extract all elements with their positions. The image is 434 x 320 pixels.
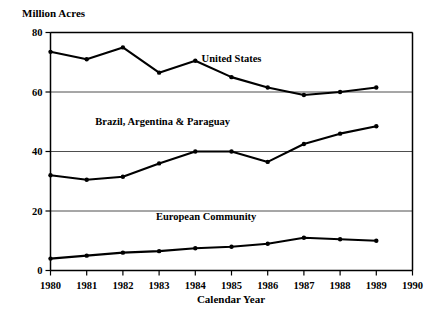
data-point-united-states-1988 xyxy=(338,90,342,94)
data-series-group xyxy=(48,45,378,261)
data-point-european-community-1984 xyxy=(193,246,197,250)
data-point-brazil-argentina-paraguay-1989 xyxy=(374,124,378,128)
data-point-european-community-1983 xyxy=(157,249,161,253)
data-point-united-states-1985 xyxy=(229,75,233,79)
data-point-brazil-argentina-paraguay-1986 xyxy=(266,160,270,164)
data-point-european-community-1980 xyxy=(48,256,52,260)
data-point-european-community-1982 xyxy=(121,250,125,254)
data-point-united-states-1986 xyxy=(266,85,270,89)
data-point-brazil-argentina-paraguay-1983 xyxy=(157,161,161,165)
data-point-united-states-1980 xyxy=(48,50,52,54)
x-tick-label-1985: 1985 xyxy=(221,280,242,291)
data-point-european-community-1981 xyxy=(85,253,89,257)
x-tick-label-1984: 1984 xyxy=(185,280,207,291)
chart-container: 020406080 198019811982198319841985198619… xyxy=(0,0,434,320)
series-line-brazil-argentina-paraguay xyxy=(51,126,377,180)
data-point-european-community-1987 xyxy=(302,236,306,240)
data-point-brazil-argentina-paraguay-1980 xyxy=(48,173,52,177)
y-tick-label-80: 80 xyxy=(32,27,43,38)
x-tick-label-1986: 1986 xyxy=(257,280,278,291)
data-point-european-community-1985 xyxy=(229,245,233,249)
data-point-united-states-1989 xyxy=(374,85,378,89)
x-tick-label-1983: 1983 xyxy=(149,280,170,291)
data-point-brazil-argentina-paraguay-1987 xyxy=(302,142,306,146)
data-point-united-states-1983 xyxy=(157,70,161,74)
data-point-brazil-argentina-paraguay-1988 xyxy=(338,131,342,135)
x-axis-ticks-group: 1980198119821983198419851986198719881989… xyxy=(40,271,423,291)
data-point-united-states-1984 xyxy=(193,59,197,63)
data-point-brazil-argentina-paraguay-1984 xyxy=(193,149,197,153)
data-point-european-community-1986 xyxy=(266,242,270,246)
x-tick-label-1980: 1980 xyxy=(40,280,61,291)
x-tick-label-1989: 1989 xyxy=(366,280,387,291)
data-point-united-states-1982 xyxy=(121,45,125,49)
series-label-united-states: United States xyxy=(202,53,262,64)
y-axis-ticks-group: 020406080 xyxy=(32,27,51,276)
x-tick-label-1982: 1982 xyxy=(112,280,133,291)
y-tick-label-20: 20 xyxy=(32,206,43,217)
x-tick-label-1987: 1987 xyxy=(293,280,314,291)
data-point-united-states-1987 xyxy=(302,93,306,97)
series-label-brazil-argentina-paraguay: Brazil, Argentina & Paraguay xyxy=(95,116,230,127)
y-tick-label-0: 0 xyxy=(37,265,42,276)
series-label-european-community: European Community xyxy=(156,211,257,222)
y-tick-label-40: 40 xyxy=(32,146,43,157)
data-point-brazil-argentina-paraguay-1985 xyxy=(229,149,233,153)
x-tick-label-1981: 1981 xyxy=(76,280,97,291)
data-point-european-community-1988 xyxy=(338,237,342,241)
data-point-european-community-1989 xyxy=(374,239,378,243)
y-tick-label-60: 60 xyxy=(32,87,43,98)
x-tick-label-1990: 1990 xyxy=(402,280,423,291)
data-point-united-states-1981 xyxy=(85,57,89,61)
data-point-brazil-argentina-paraguay-1981 xyxy=(85,178,89,182)
data-point-brazil-argentina-paraguay-1982 xyxy=(121,175,125,179)
series-line-european-community xyxy=(51,238,377,259)
x-tick-label-1988: 1988 xyxy=(330,280,351,291)
line-chart: 020406080 198019811982198319841985198619… xyxy=(0,0,434,320)
